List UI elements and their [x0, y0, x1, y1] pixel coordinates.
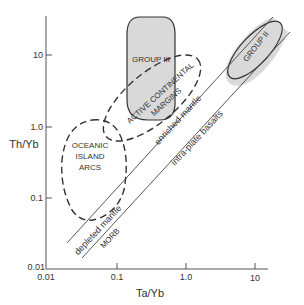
y-axis-label: Th/Yb	[9, 138, 38, 150]
oia-label-line2: ISLAND	[76, 152, 105, 161]
oia-label-line3: ARCS	[79, 163, 101, 172]
x-tick-0.01: 0.01	[37, 272, 55, 282]
x-tick-0.1: 0.1	[111, 272, 124, 282]
x-axis-label: Ta/Yb	[136, 287, 164, 299]
y-tick-0.01: 0.01	[27, 262, 45, 272]
x-tick-10: 10	[250, 273, 260, 283]
y-tick-1: 1.0	[30, 122, 43, 132]
y-tick-10: 10	[33, 50, 43, 60]
group-iii-label: GROUP III	[132, 55, 170, 64]
y-tick-0.1: 0.1	[30, 193, 43, 203]
oia-label-line1: OCEANIC	[72, 141, 109, 150]
tectonic-discrimination-diagram: 10 1.0 0.1 0.01 0.01 0.1 1.0 10 Ta/Yb Th…	[0, 0, 304, 305]
x-tick-1: 1.0	[180, 272, 193, 282]
